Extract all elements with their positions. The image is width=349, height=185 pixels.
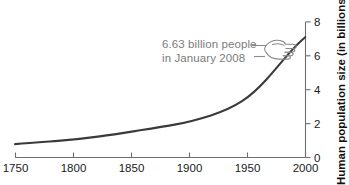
y-tick-label-4: 4	[314, 84, 321, 96]
y-axis-ticks	[306, 22, 311, 158]
population-growth-chart: 1750 1800 1850 1900 1950 2000 0 2 4 6 8	[0, 0, 349, 185]
x-tick-label-1850: 1850	[119, 162, 145, 174]
annotation-line-2: in January 2008	[162, 52, 245, 66]
x-axis-tick-labels: 1750 1800 1850 1900 1950 2000	[3, 162, 319, 174]
y-axis-title: Human population size (in billions)	[332, 0, 349, 185]
x-tick-label-1900: 1900	[177, 162, 203, 174]
x-tick-label-2000: 2000	[293, 162, 319, 174]
x-tick-label-1950: 1950	[235, 162, 261, 174]
x-axis-ticks	[16, 153, 306, 158]
y-axis-tick-labels: 0 2 4 6 8	[314, 16, 321, 164]
x-tick-label-1750: 1750	[3, 162, 29, 174]
annotation-line-1: 6.63 billion people	[162, 38, 257, 52]
y-tick-label-8: 8	[314, 16, 320, 28]
y-tick-label-2: 2	[314, 118, 320, 130]
y-tick-label-6: 6	[314, 50, 320, 62]
population-curve	[15, 37, 305, 144]
y-tick-label-0: 0	[314, 152, 320, 164]
chart-plot-area: 1750 1800 1850 1900 1950 2000 0 2 4 6 8	[0, 0, 349, 185]
x-tick-label-1800: 1800	[61, 162, 87, 174]
